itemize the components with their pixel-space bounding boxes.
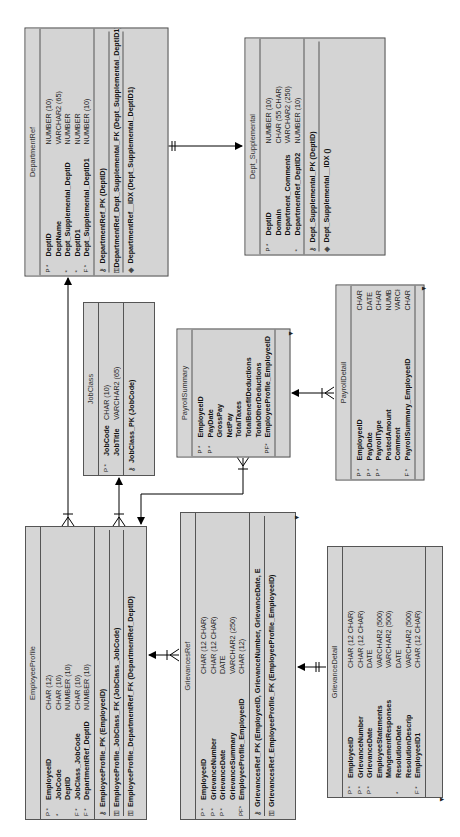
column-type: DATE bbox=[218, 517, 228, 674]
key-row[interactable]: ⚷Dept_Supplemental_PK (DeptID) bbox=[305, 41, 319, 251]
column-list: P *DeptIDNUMBER (10)DeptNameVARCHAR2 (65… bbox=[40, 28, 94, 275]
column-row[interactable]: P *EmployeeIDCHAR (12) bbox=[44, 531, 54, 816]
column-row[interactable]: F *JobClass_JobCodeCHAR (10) bbox=[73, 531, 83, 816]
scroll-more-icon[interactable]: ▼ bbox=[438, 796, 445, 803]
column-type: NUMBER (10) bbox=[81, 32, 91, 144]
table-title: GrievanceDetail bbox=[328, 547, 343, 797]
table-payroll-detail[interactable]: PayrollDetailP *EmployeeIDCHAR (P *PayDa… bbox=[335, 284, 424, 480]
column-row[interactable]: CommentVARCH bbox=[392, 289, 402, 476]
table-job-class[interactable]: JobClassP *JobCodeCHAR (10)JobTitleVARCH… bbox=[83, 302, 155, 476]
column-flag bbox=[53, 256, 63, 272]
key-row[interactable]: ⚷JobClass_PK (JobCode) bbox=[125, 306, 138, 472]
key-row[interactable]: ◈Dept_Supplemental__IDX () bbox=[319, 41, 332, 251]
column-row[interactable]: P *GrievanceNumberCHAR (12 CHAR) bbox=[356, 551, 366, 794]
scroll-more-icon[interactable]: ▼ bbox=[420, 285, 427, 292]
key-label: EmployeeProfile_PK (EmployeeID) bbox=[96, 689, 109, 807]
column-row[interactable]: P *GrievanceNumberCHAR (12 CHAR) bbox=[209, 517, 219, 816]
column-row[interactable]: PF*EmployeeProfile_EmployeeID bbox=[262, 333, 272, 453]
column-row[interactable]: TotalBenefitDeductions bbox=[243, 333, 253, 453]
column-row[interactable]: P *PayDate bbox=[205, 333, 215, 453]
column-flag bbox=[404, 778, 414, 794]
column-row[interactable]: P *GrievanceDateDATE bbox=[218, 517, 228, 816]
column-row[interactable]: F *PayrollSummary_EmployeeIDCHAR bbox=[402, 289, 412, 476]
column-flag: * bbox=[394, 778, 404, 794]
column-row[interactable]: P *PayrollTypeCHAR ( bbox=[373, 289, 383, 476]
table-department-ref[interactable]: DepartmentRefP *DeptIDNUMBER (10)DeptNam… bbox=[24, 27, 168, 276]
column-list: P *EmployeeIDCHAR (12)*JobCodeCHAR (10)D… bbox=[41, 527, 95, 819]
table-dept-supplemental[interactable]: Dept_SupplementalP *DeptIDNUMBER (10)Dom… bbox=[244, 37, 385, 255]
column-flag: P * bbox=[263, 235, 273, 251]
key-label: DepartmentRef_PK (DeptID) bbox=[95, 168, 108, 263]
column-row[interactable]: *ResolutionDateDATE bbox=[394, 551, 404, 794]
key-label: JobClass_PK (JobCode) bbox=[125, 380, 138, 463]
column-flag bbox=[228, 800, 238, 816]
column-type: CHAR (55 CHAR) bbox=[273, 42, 283, 143]
table-employee-profile[interactable]: EmployeeProfileP *EmployeeIDCHAR (12)*Jo… bbox=[25, 526, 147, 820]
column-row[interactable]: F *EmployeeID1CHAR (12 CHAR) bbox=[413, 551, 423, 794]
column-row[interactable]: GrievanceSummaryVARCHAR2 (250) bbox=[228, 517, 238, 816]
column-row[interactable]: *DepartmentRef_DeptID2NUMBER (10) bbox=[292, 42, 302, 251]
column-row[interactable]: F *Dept_Supplemental_DeptID1NUMBER (10) bbox=[81, 32, 91, 272]
column-name: GrievanceNumber bbox=[209, 674, 219, 800]
column-row[interactable]: PostedAmountNUMBE bbox=[383, 289, 393, 476]
column-row[interactable]: TotalTaxes bbox=[233, 333, 243, 453]
column-type: NUMBER (10) bbox=[63, 531, 73, 710]
column-row[interactable]: JobTitleVARCHAR2 (65) bbox=[112, 307, 122, 472]
key-row[interactable]: ⚿GrievancesRef_EmployeeProfile_FK (Emplo… bbox=[265, 516, 278, 816]
column-row[interactable]: NetPay bbox=[224, 333, 234, 453]
key-label: EmployeeProfile_DepartmentRef_FK (Depart… bbox=[124, 596, 137, 807]
key-row[interactable]: ⚿EmployeeProfile_DepartmentRef_FK (Depar… bbox=[124, 530, 137, 816]
column-row[interactable]: *Dept_Supplemental_DeptIDNUMBER bbox=[62, 32, 72, 272]
key-row[interactable]: ◈DepartmentRef__IDX (Dept_Supplemental_D… bbox=[123, 31, 136, 272]
column-type: DATE bbox=[365, 551, 375, 668]
key-row[interactable]: ⚷GrievancesRef_PK (EmployeeID, Grievance… bbox=[251, 516, 265, 816]
pk-key-icon: ⚷ bbox=[95, 263, 108, 272]
column-row[interactable]: P *PayDateDATE bbox=[364, 289, 374, 476]
column-row[interactable]: DomainCHAR (55 CHAR) bbox=[273, 42, 283, 251]
column-row[interactable]: GrossPay bbox=[214, 333, 224, 453]
key-row[interactable]: ⚷DepartmentRef_PK (DeptID) bbox=[95, 31, 109, 272]
pk-key-icon: ⚷ bbox=[251, 807, 264, 816]
column-row[interactable]: P *DeptIDNUMBER (10) bbox=[43, 32, 53, 272]
column-row[interactable]: ResolutionDescripVARCHAR2 (500) bbox=[404, 551, 414, 794]
column-row[interactable]: EmployeeStatementsVARCHAR2 (500) bbox=[375, 551, 385, 794]
column-row[interactable]: TotalOtherDeductions bbox=[253, 333, 263, 453]
column-type: CHAR (12) bbox=[237, 517, 247, 674]
pk-key-icon: ⚷ bbox=[125, 463, 138, 472]
column-type: NUMBER (10) bbox=[292, 42, 302, 143]
column-name: GrievanceDate bbox=[365, 668, 375, 778]
column-row[interactable]: Department_CommentsVARCHAR2 (250) bbox=[282, 42, 292, 251]
key-row[interactable]: ⚿DepartmentRef_Dept_Supplemental_FK (Dep… bbox=[109, 31, 123, 272]
column-row[interactable]: DeptIDNUMBER (10) bbox=[63, 531, 73, 816]
column-name: PayDate bbox=[364, 310, 374, 460]
key-row[interactable]: ⚿EmployeeProfile_JobClass_FK (JobClass_J… bbox=[110, 530, 124, 816]
column-row[interactable]: P *GrievanceDateDATE bbox=[365, 551, 375, 794]
column-type: VARCHAR2 (65) bbox=[53, 32, 63, 144]
column-row[interactable]: MangementResponsesVARCHAR2 (500) bbox=[384, 551, 394, 794]
column-row[interactable]: DeptNameVARCHAR2 (65) bbox=[53, 32, 63, 272]
column-row[interactable]: F *DepartmentRef_DeptIDNUMBER (10) bbox=[82, 531, 92, 816]
key-row[interactable]: ⚷EmployeeProfile_PK (EmployeeID) bbox=[96, 530, 110, 816]
column-row[interactable]: P *DeptIDNUMBER (10) bbox=[263, 42, 273, 251]
table-payroll-summary[interactable]: PayrollSummaryP *EmployeeIDP *PayDateGro… bbox=[176, 328, 290, 457]
table-grievances-ref[interactable]: GrievancesRefP *EmployeeIDCHAR (12 CHAR)… bbox=[180, 512, 296, 820]
scroll-more-icon[interactable]: ▼ bbox=[287, 330, 294, 337]
scroll-more-icon[interactable]: ▼ bbox=[293, 514, 300, 521]
column-row[interactable]: PF*EmployeeProfile_EmployeeIDCHAR (12) bbox=[237, 517, 247, 816]
column-row[interactable]: P *EmployeeIDCHAR (12 CHAR) bbox=[346, 551, 356, 794]
column-row[interactable]: *DeptID1NUMBER bbox=[72, 32, 82, 272]
column-type: CHAR (10) bbox=[102, 307, 112, 420]
column-row[interactable]: P *JobCodeCHAR (10) bbox=[102, 307, 112, 472]
column-row[interactable]: P *EmployeeIDCHAR ( bbox=[354, 289, 364, 476]
column-name: EmployeeID bbox=[195, 328, 205, 437]
column-flag: F * bbox=[402, 460, 412, 476]
column-flag: P * bbox=[218, 800, 228, 816]
column-name: EmployeeStatements bbox=[375, 668, 385, 778]
column-row[interactable]: *JobCodeCHAR (10) bbox=[54, 531, 64, 816]
column-row[interactable]: P *EmployeeID bbox=[195, 333, 205, 453]
table-grievance-detail[interactable]: GrievanceDetailP *EmployeeIDCHAR (12 CHA… bbox=[327, 546, 443, 798]
column-flag bbox=[273, 235, 283, 251]
column-row[interactable]: P *EmployeeIDCHAR (12 CHAR) bbox=[199, 517, 209, 816]
column-name: Domain bbox=[273, 143, 283, 235]
column-flag bbox=[214, 437, 224, 453]
